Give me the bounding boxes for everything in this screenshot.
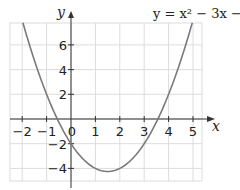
x-tick-label: 2: [116, 124, 124, 139]
x-tick-label: 3: [140, 124, 148, 139]
grid: [10, 23, 202, 181]
chart: −2−1012345−4−2246 y = x² − 3x − 2 y x: [0, 0, 240, 190]
y-tick-label: −4: [48, 161, 67, 176]
y-tick-label: 4: [59, 63, 67, 78]
tick-labels: −2−1012345−4−2246: [13, 38, 198, 177]
y-tick-label: 6: [59, 38, 67, 53]
y-axis-arrow-icon: [68, 11, 74, 18]
x-tick-label: 0: [68, 124, 76, 139]
y-tick-label: 2: [59, 87, 67, 102]
x-tick-label: 1: [91, 124, 99, 139]
axes: [10, 11, 215, 188]
x-tick-label: 4: [164, 124, 172, 139]
y-axis-label: y: [56, 4, 66, 20]
chart-title: y = x² − 3x − 2: [152, 6, 240, 21]
x-tick-label: −2: [13, 124, 32, 139]
x-axis-label: x: [212, 118, 220, 134]
x-tick-label: 5: [189, 124, 197, 139]
y-tick-label: −2: [48, 137, 67, 152]
